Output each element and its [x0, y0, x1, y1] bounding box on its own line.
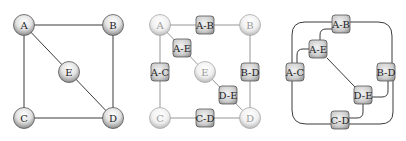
- node-e: E: [59, 62, 80, 83]
- node-a: A: [14, 15, 35, 36]
- line-node-a-c: A-C: [285, 63, 305, 81]
- edge-de-cd: [349, 104, 363, 118]
- edge-ae-ac: [297, 49, 309, 63]
- edge-node-label: C-D: [195, 113, 214, 124]
- node-d: D: [240, 108, 261, 129]
- edge-ab-ae: [320, 29, 332, 40]
- edge-node-b-d: B-D: [241, 63, 260, 81]
- edge-node-label: A-B: [331, 19, 350, 30]
- edge-node-a-e: A-E: [172, 39, 191, 57]
- edge-ae-de: [327, 58, 355, 87]
- node-label: B: [109, 20, 116, 31]
- panel-line-graph: A-B A-E A-C B-D D-E C-D: [285, 15, 396, 129]
- node-c: C: [150, 108, 171, 129]
- node-b: B: [103, 15, 124, 36]
- edge-node-label: A-B: [195, 20, 214, 31]
- node-label: A: [155, 20, 164, 31]
- edge-node-label: A-C: [285, 67, 305, 78]
- edge-node-c-d: C-D: [195, 109, 214, 127]
- panel-subdivided-graph: A B E C D A-B A-E A-C: [150, 15, 261, 129]
- edge-node-a-c: A-C: [150, 63, 170, 81]
- node-c: C: [14, 108, 35, 129]
- node-d: D: [103, 108, 124, 129]
- node-label: E: [201, 67, 208, 78]
- edge-node-a-b: A-B: [195, 16, 214, 34]
- edge-ac-cd: [292, 81, 331, 124]
- line-node-a-b: A-B: [331, 15, 350, 33]
- line-node-d-e: D-E: [354, 86, 373, 104]
- line-node-c-d: C-D: [330, 111, 349, 129]
- diagram-stage: A B E C D A: [0, 0, 406, 141]
- graph-diagram: A B E C D A: [0, 0, 406, 141]
- edge-node-label: B-D: [241, 67, 260, 78]
- edge-node-label: C-D: [330, 115, 349, 126]
- node-label: C: [156, 113, 164, 124]
- edge-node-label: A-E: [172, 43, 191, 54]
- node-label: C: [20, 113, 28, 124]
- node-e: E: [195, 62, 216, 83]
- edge-node-label: D-E: [354, 90, 373, 101]
- edge-ab-bd: [350, 22, 392, 63]
- node-label: D: [246, 113, 254, 124]
- edge-node-label: D-E: [219, 90, 238, 101]
- line-node-a-e: A-E: [308, 40, 327, 58]
- node-label: A: [19, 20, 28, 31]
- node-label: D: [109, 113, 117, 124]
- edge-node-label: B-D: [377, 67, 396, 78]
- node-label: B: [246, 20, 253, 31]
- node-b: B: [240, 15, 261, 36]
- panel-original-graph: A B E C D: [14, 15, 124, 129]
- node-label: E: [65, 67, 72, 78]
- edge-bd-de: [372, 81, 388, 97]
- line-node-b-d: B-D: [377, 63, 396, 81]
- edge-node-label: A-E: [308, 44, 327, 55]
- node-a: A: [150, 15, 171, 36]
- edge-node-d-e: D-E: [219, 86, 238, 104]
- edge-node-label: A-C: [150, 67, 170, 78]
